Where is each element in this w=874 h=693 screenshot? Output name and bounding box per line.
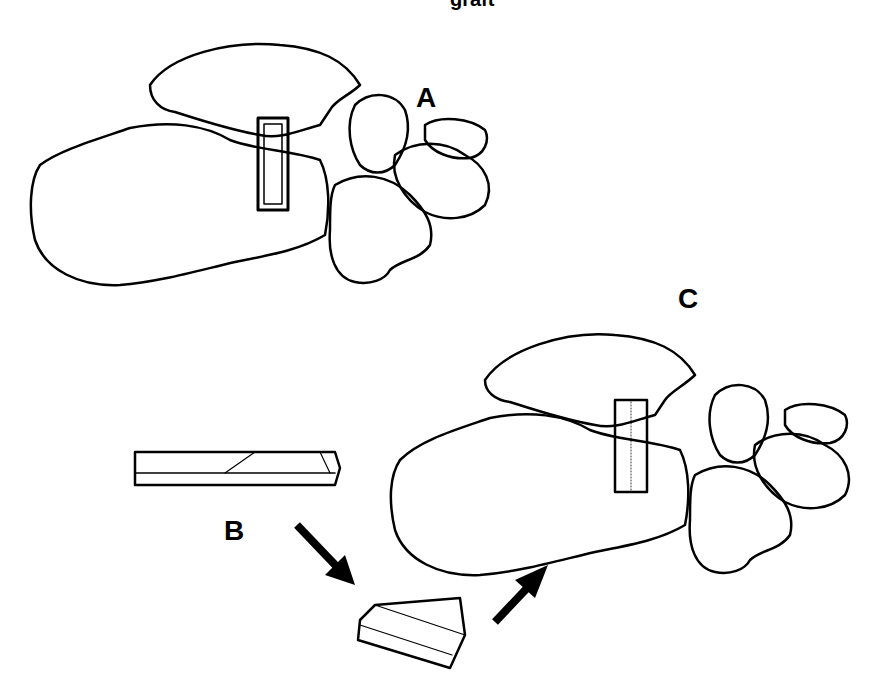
bone-diagram (0, 0, 874, 693)
arrow-down-right-icon (297, 525, 355, 585)
label-b: B (224, 515, 244, 547)
graft-wedge (358, 598, 465, 668)
label-a: A (416, 82, 436, 114)
graft-strip (135, 452, 340, 485)
panel-c-foot (391, 334, 849, 575)
panel-a-foot (31, 44, 489, 285)
label-c: C (678, 283, 698, 315)
arrows (297, 525, 548, 622)
